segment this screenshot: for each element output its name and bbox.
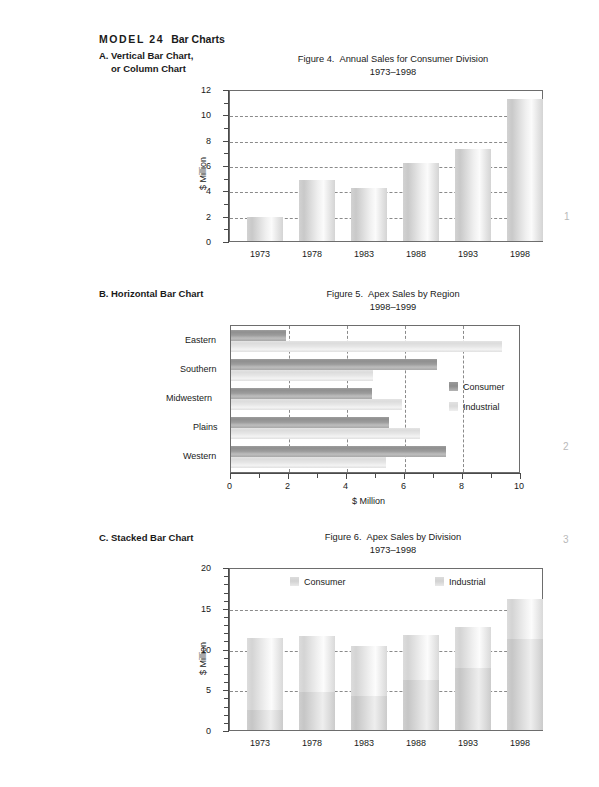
figure-4-number: Figure 4. <box>298 54 335 64</box>
figure-6-title: Figure 6.Apex Sales by Division 1973–199… <box>228 531 558 557</box>
figure-4-xtick-1993: 1993 <box>458 249 478 259</box>
stack-1978-industrial <box>299 636 335 691</box>
bar-1973 <box>247 217 283 241</box>
figure-6-y-axis <box>228 568 229 732</box>
bar-plains-consumer <box>231 417 389 428</box>
legend-swatch-consumer-icon <box>449 382 458 391</box>
figure-4-xtick-1983: 1983 <box>354 249 374 259</box>
figure-6-ytick-5: 5 <box>206 685 211 695</box>
legend-swatch-consumer-icon <box>290 577 299 586</box>
figure-4-y-axis <box>228 90 229 243</box>
section-b-heading: B.Horizontal Bar Chart <box>99 288 203 301</box>
figure-4-plot-area <box>229 90 543 242</box>
bar-plains-industrial <box>231 428 420 439</box>
model-heading: MODEL 24Bar Charts <box>99 33 225 45</box>
section-b-line1: Horizontal Bar Chart <box>111 288 203 299</box>
callout-3: 3 <box>563 534 569 545</box>
figure-6-xtick-1988: 1988 <box>406 738 426 748</box>
bar-western-industrial <box>231 457 386 468</box>
figure-4-title: Figure 4.Annual Sales for Consumer Divis… <box>228 53 558 79</box>
callout-1: 1 <box>564 211 570 222</box>
section-c-line1: Stacked Bar Chart <box>111 532 193 543</box>
bar-1998 <box>507 99 543 241</box>
figure-5-xtick-10: 10 <box>514 481 524 491</box>
figure-5-xtick-4: 4 <box>343 481 348 491</box>
figure-5-number: Figure 5. <box>326 289 363 299</box>
figure-5-x-axis-label: $ Million <box>352 496 385 506</box>
figure-6-xtick-1973: 1973 <box>250 738 270 748</box>
figure-5-subtitle: 1998–1999 <box>228 301 558 314</box>
section-a-heading: A.Vertical Bar Chart, or Column Chart <box>99 50 193 75</box>
section-a-letter: A. <box>99 50 111 63</box>
figure-4-xtick-1978: 1978 <box>302 249 322 259</box>
figure-4-ytick-8: 8 <box>206 136 211 146</box>
bar-1993 <box>455 149 491 242</box>
stack-1973-industrial <box>247 638 283 711</box>
stack-1983-industrial <box>351 646 387 696</box>
bar-1983 <box>351 188 387 241</box>
legend-swatch-industrial-icon <box>435 577 444 586</box>
figure-4-ytick-2: 2 <box>206 212 211 222</box>
legend-swatch-industrial-icon <box>449 402 458 411</box>
bar-1978 <box>299 180 335 241</box>
bar-1988 <box>403 163 439 242</box>
stack-1973-consumer <box>247 710 283 730</box>
section-c-letter: C. <box>99 532 111 545</box>
figure-5-ytick-southern: Southern <box>180 364 217 374</box>
figure-6-legend-consumer: Consumer <box>290 577 346 587</box>
bar-midwestern-industrial <box>231 399 402 410</box>
figure-6-ytick-15: 15 <box>201 604 211 614</box>
legend-label-consumer: Consumer <box>304 577 346 587</box>
model-label: MODEL 24 <box>99 33 164 45</box>
figure-6-y-axis-label: $ Million <box>198 642 208 675</box>
stack-1988-consumer <box>403 680 439 731</box>
figure-6-xtick-1978: 1978 <box>302 738 322 748</box>
legend-label-consumer: Consumer <box>463 382 505 392</box>
figure-6-xtick-1998: 1998 <box>510 738 530 748</box>
stack-1993-consumer <box>455 668 491 730</box>
bar-southern-consumer <box>231 359 437 370</box>
figure-5-legend-consumer: Consumer <box>449 382 505 392</box>
stack-1978-consumer <box>299 692 335 730</box>
figure-4-ytick-12: 12 <box>201 85 211 95</box>
bar-western-consumer <box>231 446 446 457</box>
bar-eastern-consumer <box>231 330 286 341</box>
figure-5-xtick-8: 8 <box>459 481 464 491</box>
stack-1993-industrial <box>455 627 491 668</box>
figure-6-legend-industrial: Industrial <box>435 577 486 587</box>
figure-6-subtitle: 1973–1998 <box>228 544 558 557</box>
legend-label-industrial: Industrial <box>449 577 486 587</box>
bar-midwestern-consumer <box>231 388 372 399</box>
figure-4-y-axis-label: $ Million <box>198 157 208 190</box>
figure-5-title: Figure 5.Apex Sales by Region 1998–1999 <box>228 288 558 314</box>
figure-4-ytick-10: 10 <box>201 110 211 120</box>
figure-4-ytick-0: 0 <box>206 237 211 247</box>
figure-4-xtick-1998: 1998 <box>510 249 530 259</box>
section-c-heading: C.Stacked Bar Chart <box>99 532 193 545</box>
figure-4-caption: Annual Sales for Consumer Division <box>339 54 488 64</box>
figure-5-caption: Apex Sales by Region <box>368 289 459 299</box>
figure-6-xtick-1983: 1983 <box>354 738 374 748</box>
figure-5-xtick-2: 2 <box>285 481 290 491</box>
figure-5-legend-industrial: Industrial <box>449 402 500 412</box>
figure-5-xtick-6: 6 <box>401 481 406 491</box>
stack-1998-consumer <box>507 639 543 730</box>
model-title: Bar Charts <box>171 33 225 45</box>
figure-6-caption: Apex Sales by Division <box>367 532 462 542</box>
figure-4-xtick-1988: 1988 <box>406 249 426 259</box>
figure-6-number: Figure 6. <box>325 532 362 542</box>
section-b-letter: B. <box>99 288 111 301</box>
stack-1998-industrial <box>507 599 543 639</box>
figure-5-ytick-plains: Plains <box>193 422 218 432</box>
figure-4-subtitle: 1973–1998 <box>228 66 558 79</box>
callout-2: 2 <box>563 441 569 452</box>
figure-5-plot-area: Consumer Industrial <box>230 325 520 473</box>
figure-6-plot-area: Consumer Industrial <box>229 568 543 731</box>
stack-1988-industrial <box>403 635 439 680</box>
figure-6-xtick-1993: 1993 <box>458 738 478 748</box>
stack-1983-consumer <box>351 696 387 730</box>
figure-5-ytick-midwestern: Midwestern <box>166 393 212 403</box>
legend-label-industrial: Industrial <box>463 402 500 412</box>
figure-5-ytick-eastern: Eastern <box>185 335 216 345</box>
figure-6-ytick-0: 0 <box>206 726 211 736</box>
